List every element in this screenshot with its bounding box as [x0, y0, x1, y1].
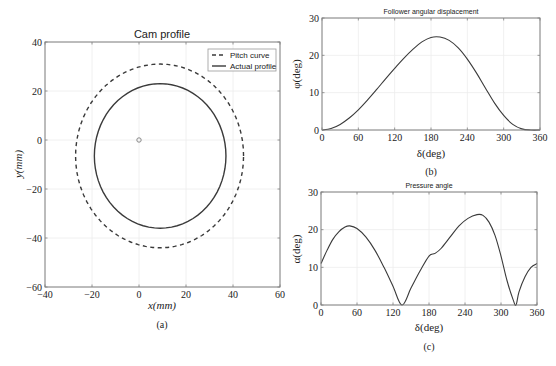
x-tick-label: 300 [494, 307, 509, 318]
x-tick-label: 180 [422, 307, 437, 318]
y-tick-label: −60 [26, 282, 42, 293]
y-tick-label: 10 [308, 262, 318, 273]
cam-profile-plot: −40−200204060−60−40−2002040 Cam profile … [12, 28, 285, 331]
x-tick-label: 360 [533, 132, 548, 143]
x-tick-label: 0 [320, 132, 325, 143]
caption-a: (a) [156, 319, 167, 331]
caption-b: (b) [425, 166, 437, 178]
plot-title-a: Cam profile [134, 28, 190, 40]
y-tick-label: −40 [26, 233, 42, 244]
y-axis-label-b: φ(deg) [290, 59, 303, 89]
x-tick-label: 240 [458, 307, 473, 318]
y-tick-label: 20 [32, 86, 42, 97]
x-tick-label: 20 [181, 289, 191, 300]
x-tick-label: −20 [84, 289, 100, 300]
y-tick-label: 30 [308, 187, 318, 198]
plot-title-c: Pressure angle [405, 182, 452, 190]
caption-c: (c) [423, 341, 434, 353]
x-tick-label: 60 [275, 289, 285, 300]
x-axis-label-b: δ(deg) [417, 147, 446, 160]
plot-title-b: Follower angular displacement [384, 8, 479, 16]
x-axis-label-c: δ(deg) [415, 321, 444, 334]
y-tick-label: 0 [313, 300, 318, 311]
y-tick-label: 30 [309, 13, 319, 24]
y-tick-label: 0 [37, 135, 42, 146]
figure: −40−200204060−60−40−2002040 Cam profile … [0, 0, 556, 366]
x-axis-label-a: x(mm) [147, 299, 176, 312]
y-axis-label-a: y(mm) [12, 150, 25, 179]
ticks-c: 0601201802403003600102030 [308, 187, 545, 319]
y-axis-label-c: α(deg) [290, 234, 303, 263]
y-tick-label: 20 [309, 50, 319, 61]
grid-c [321, 192, 537, 305]
y-tick-label: −20 [26, 184, 42, 195]
x-tick-label: 60 [352, 307, 362, 318]
y-tick-label: 10 [309, 87, 319, 98]
y-tick-label: 40 [32, 37, 42, 48]
x-tick-label: 60 [353, 132, 363, 143]
pressure-angle-plot: 0601201802403003600102030 Pressure angle… [290, 182, 545, 353]
legend-actual-profile: Actual profile [230, 62, 277, 71]
x-tick-label: 0 [319, 307, 324, 318]
legend: Pitch curve Actual profile [208, 49, 277, 71]
legend-pitch-curve: Pitch curve [230, 51, 270, 60]
y-tick-label: 0 [314, 125, 319, 136]
x-tick-label: 40 [228, 289, 238, 300]
x-tick-label: 120 [386, 307, 401, 318]
y-tick-label: 20 [308, 224, 318, 235]
x-tick-label: 240 [460, 132, 475, 143]
x-tick-label: 180 [424, 132, 439, 143]
angular-displacement-plot: 0601201802403003600102030 Follower angul… [290, 8, 548, 178]
x-tick-label: 0 [137, 289, 142, 300]
x-tick-label: 120 [387, 132, 402, 143]
x-tick-label: 300 [496, 132, 511, 143]
x-tick-label: 360 [530, 307, 545, 318]
